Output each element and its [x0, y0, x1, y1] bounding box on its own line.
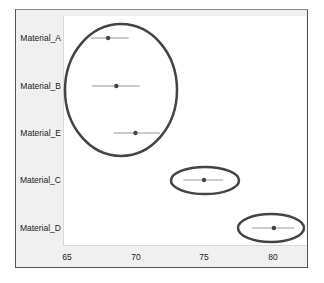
point-material-b [114, 84, 118, 88]
annotation-ellipses [65, 24, 304, 242]
ellipse-group-1 [65, 24, 177, 156]
chart-overlay [0, 0, 324, 283]
point-material-d [272, 226, 276, 230]
point-material-c [202, 178, 206, 182]
point-material-e [133, 131, 137, 135]
point-material-a [106, 36, 110, 40]
data-points [90, 36, 294, 230]
